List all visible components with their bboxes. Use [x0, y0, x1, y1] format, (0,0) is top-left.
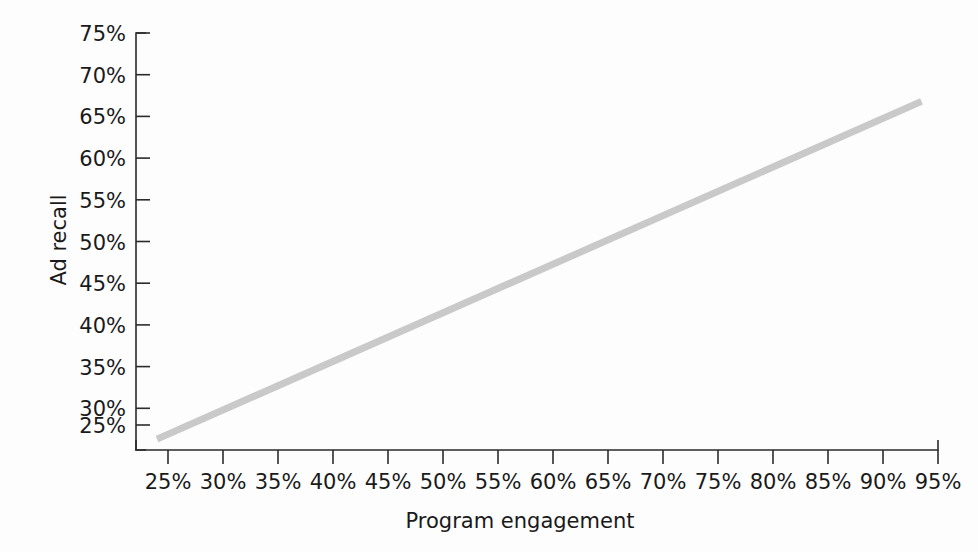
x-tick-label: 95% — [915, 470, 962, 494]
x-tick-label: 55% — [475, 470, 522, 494]
y-tick-label: 65% — [79, 105, 126, 129]
x-tick-label: 90% — [860, 470, 907, 494]
y-tick-label: 45% — [79, 272, 126, 296]
y-tick-label: 60% — [79, 147, 126, 171]
x-tick-label: 80% — [750, 470, 797, 494]
x-tick-label: 75% — [695, 470, 742, 494]
line-chart: 75% 70% 65% 60% 55% 50% 45% 40% 35% 30% … — [0, 0, 978, 552]
x-tick-label: 35% — [255, 470, 302, 494]
x-axis-title: Program engagement — [406, 509, 635, 533]
y-tick-label: 25% — [79, 414, 126, 438]
x-tick-label: 65% — [585, 470, 632, 494]
y-axis-title: Ad recall — [47, 194, 71, 285]
y-tick-label: 70% — [79, 64, 126, 88]
chart-page: 75% 70% 65% 60% 55% 50% 45% 40% 35% 30% … — [0, 0, 978, 552]
x-tick-label: 45% — [365, 470, 412, 494]
x-tick-label: 40% — [310, 470, 357, 494]
x-tick-label: 70% — [640, 470, 687, 494]
y-tick-label: 55% — [79, 189, 126, 213]
x-tick-label: 30% — [200, 470, 247, 494]
y-tick-label: 35% — [79, 356, 126, 380]
x-tick-label: 85% — [805, 470, 852, 494]
y-axis-tick-labels: 75% 70% 65% 60% 55% 50% 45% 40% 35% 30% … — [79, 22, 126, 438]
x-tick-label: 50% — [420, 470, 467, 494]
x-tick-label: 60% — [530, 470, 577, 494]
x-tick-label: 25% — [145, 470, 192, 494]
y-tick-label: 75% — [79, 22, 126, 46]
x-axis-tick-labels: 25% 30% 35% 40% 45% 50% 55% 60% 65% 70% … — [145, 470, 962, 494]
y-tick-label: 40% — [79, 314, 126, 338]
y-tick-label: 50% — [79, 231, 126, 255]
